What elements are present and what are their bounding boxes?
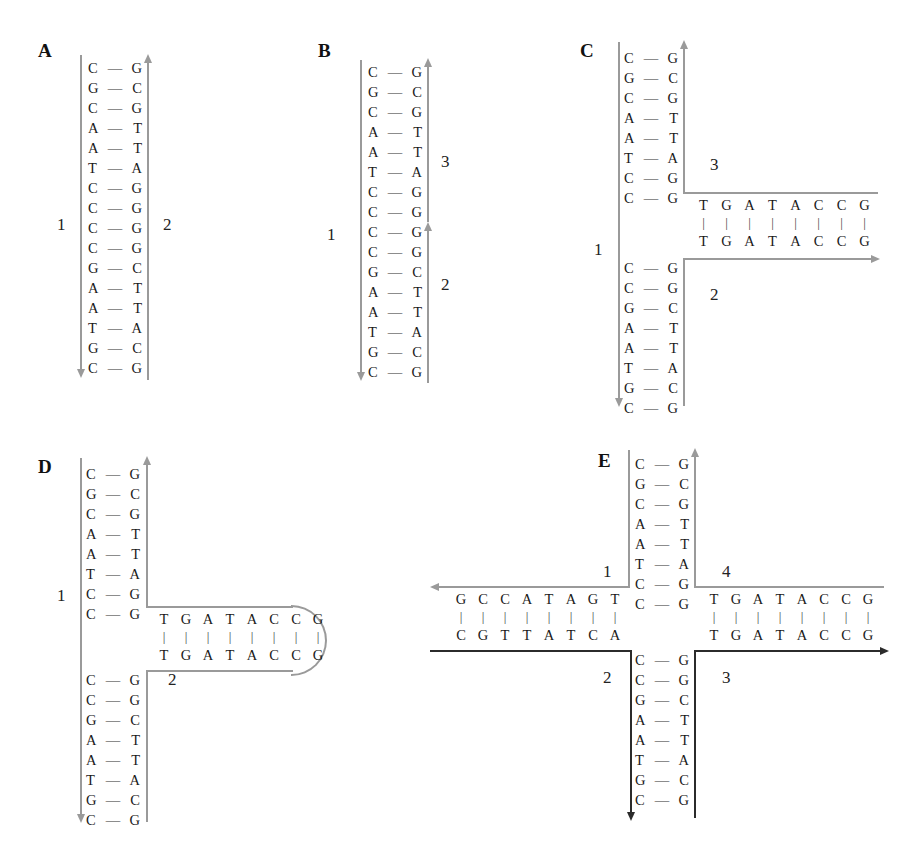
hydrogen-bond: — — [100, 584, 126, 604]
hydrogen-bond: | — [784, 215, 807, 231]
panel-c-lower-ladder: C—GC—GG—CA—TA—TT—AG—CC—G — [618, 258, 684, 418]
base-pair: C—G — [80, 604, 146, 624]
base-right: T — [131, 524, 140, 544]
base-pair: A—T — [82, 278, 148, 298]
panel-e-strand-2-arrowhead — [627, 812, 635, 821]
panel-b: B 1 2 3 C—GG—CC—GA—TA—TT—AC—GC—GC—GC—GG—… — [290, 0, 580, 428]
base-left: C — [368, 222, 378, 242]
base: A — [747, 591, 769, 607]
base-pair: G—C — [82, 258, 148, 278]
hydrogen-bond: — — [638, 318, 664, 338]
base: A — [241, 611, 263, 627]
base-pair: G—C — [82, 78, 148, 98]
hydrogen-bond: — — [649, 514, 675, 534]
base-left: C — [635, 670, 645, 690]
base-left: G — [635, 474, 645, 494]
base-right: G — [679, 574, 689, 594]
base-left: G — [86, 790, 96, 810]
hydrogen-bond: | — [807, 215, 830, 231]
base-left: A — [624, 128, 634, 148]
base-left: C — [88, 98, 98, 118]
base-pair: T—A — [629, 554, 695, 574]
base-left: C — [368, 182, 378, 202]
panel-d-upper-ladder: C—GG—CC—GA—TA—TT—AC—GC—G — [80, 464, 146, 624]
hydrogen-bond: | — [853, 215, 876, 231]
base-right: T — [131, 544, 140, 564]
base-pair: C—G — [80, 670, 146, 690]
hydrogen-bond: | — [450, 609, 472, 625]
base: A — [747, 627, 769, 643]
panel-a: A 1 2 C—GG—CC—GA—TA—TT—AC—GC—GC—GC—GG—CA… — [0, 0, 300, 428]
base-right: G — [412, 362, 422, 382]
hydrogen-bond: — — [649, 770, 675, 790]
base-right: G — [679, 670, 689, 690]
base-pair: G—C — [618, 378, 684, 398]
hydrogen-bond: — — [649, 710, 675, 730]
base-right: G — [679, 790, 689, 810]
hydrogen-bond: | — [769, 609, 791, 625]
base-right: C — [130, 484, 140, 504]
base: T — [769, 627, 791, 643]
hydrogen-bond: | — [175, 629, 197, 645]
panel-e-strand-4-number: 4 — [722, 562, 731, 582]
base-left: A — [635, 710, 645, 730]
base: G — [307, 611, 329, 627]
base: A — [738, 197, 761, 213]
arm-bond-row: |||||||| — [692, 215, 876, 231]
base-pair: T—A — [362, 162, 428, 182]
base-left: C — [88, 58, 98, 78]
hydrogen-bond: — — [102, 218, 128, 238]
hydrogen-bond: — — [638, 258, 664, 278]
base-right: G — [132, 238, 142, 258]
base: G — [175, 611, 197, 627]
hydrogen-bond: | — [703, 609, 725, 625]
base-pair: A—T — [362, 142, 428, 162]
hydrogen-bond: — — [100, 564, 126, 584]
base: A — [197, 611, 219, 627]
base: C — [263, 611, 285, 627]
base-left: A — [368, 302, 378, 322]
base-pair: A—T — [362, 122, 428, 142]
base-right: G — [668, 168, 678, 188]
base-left: A — [368, 282, 378, 302]
base-pair: G—C — [80, 710, 146, 730]
base: G — [853, 233, 876, 249]
base-left: C — [86, 504, 96, 524]
base-right: C — [132, 78, 142, 98]
base-right: C — [668, 298, 678, 318]
hydrogen-bond: — — [649, 494, 675, 514]
base-left: C — [624, 88, 634, 108]
base-pair: G—C — [629, 474, 695, 494]
base-left: G — [368, 342, 378, 362]
hydrogen-bond: — — [638, 168, 664, 188]
base-pair: C—G — [362, 242, 428, 262]
base-left: A — [368, 122, 378, 142]
hydrogen-bond: — — [649, 574, 675, 594]
base-left: A — [635, 730, 645, 750]
base-right: G — [132, 58, 142, 78]
panel-e-label: E — [598, 450, 611, 472]
base-left: T — [368, 162, 377, 182]
base-pair: T—A — [618, 358, 684, 378]
base: C — [285, 647, 307, 663]
base: G — [582, 591, 604, 607]
base: C — [830, 233, 853, 249]
base-pair: T—A — [80, 770, 146, 790]
base-pair: A—T — [618, 338, 684, 358]
base: T — [692, 233, 715, 249]
base-pair: C—G — [629, 494, 695, 514]
base-pair: A—T — [82, 138, 148, 158]
panel-a-label: A — [38, 40, 52, 62]
base-left: C — [368, 102, 378, 122]
base-left: C — [368, 202, 378, 222]
base-pair: G—C — [618, 298, 684, 318]
base-pair: T—A — [80, 564, 146, 584]
hydrogen-bond: — — [100, 504, 126, 524]
base-left: C — [624, 258, 634, 278]
base-left: C — [635, 650, 645, 670]
hydrogen-bond: | — [538, 609, 560, 625]
base-right: G — [130, 670, 140, 690]
hydrogen-bond: — — [638, 358, 664, 378]
base: T — [219, 647, 241, 663]
panel-e-strand-2-number: 2 — [603, 668, 612, 688]
